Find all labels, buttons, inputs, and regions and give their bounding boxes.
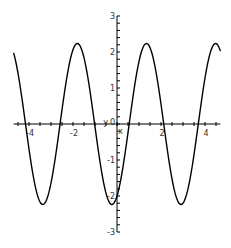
y-tick-label: 3 <box>110 12 115 21</box>
x-tick-label: -2 <box>70 129 78 138</box>
y-tick-label: -3 <box>107 228 115 237</box>
x-tick-label: 2 <box>159 129 164 138</box>
y-axis-label: y <box>103 118 108 127</box>
y-tick-label: 2 <box>110 48 115 57</box>
y-tick-label: -1 <box>107 156 115 165</box>
function-plot: -4-224-3-2-11230yx <box>0 0 231 248</box>
x-axis-label: x <box>118 127 123 136</box>
y-tick-label: 1 <box>110 84 115 93</box>
origin-label: 0 <box>110 118 115 127</box>
x-tick-label: 4 <box>203 129 208 138</box>
axes <box>14 16 221 232</box>
